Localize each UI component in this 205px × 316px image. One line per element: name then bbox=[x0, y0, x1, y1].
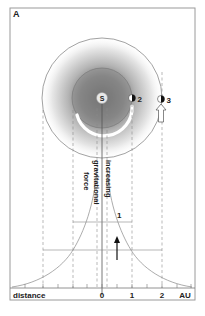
curve-label: 1 bbox=[117, 211, 122, 220]
planet-2-label: 2 bbox=[138, 95, 143, 104]
axis-unit: AU bbox=[179, 291, 191, 300]
planet-2-icon bbox=[129, 95, 136, 102]
force-text-line2: gravitational bbox=[92, 160, 101, 205]
axis-ticks bbox=[25, 284, 191, 288]
planet-3-icon bbox=[158, 96, 165, 103]
sun-label: S bbox=[100, 95, 105, 102]
force-text-line3: force bbox=[82, 172, 91, 190]
planet-3-label-text: 3 bbox=[167, 96, 172, 105]
force-curve-right bbox=[107, 170, 192, 287]
axis-tick-1: 1 bbox=[130, 291, 135, 300]
gravity-field-diagram: A S 2 3 1 increasing bbox=[0, 0, 205, 316]
increase-arrow-up-icon bbox=[114, 236, 120, 260]
force-text-line1: increasing bbox=[104, 160, 113, 198]
axis-tick-0: 0 bbox=[100, 291, 105, 300]
axis-title: distance bbox=[13, 291, 46, 300]
panel-label: A bbox=[13, 9, 20, 19]
axis-tick-2: 2 bbox=[160, 291, 165, 300]
